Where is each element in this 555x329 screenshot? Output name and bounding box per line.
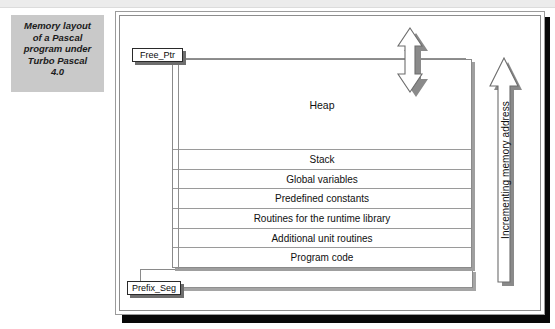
free-ptr-drop-line	[178, 58, 179, 269]
psp-block	[140, 269, 473, 288]
free-ptr-label: Free_Ptr	[132, 48, 183, 62]
memory-row-label: Program code	[291, 252, 354, 263]
memory-row-program-code: Program code	[173, 247, 471, 267]
prefix-seg-leader-line	[141, 287, 471, 288]
memory-row-label: Additional unit routines	[271, 233, 372, 244]
memory-row-stack: Stack	[173, 149, 471, 169]
figure-caption-box: Memory layout of a Pascal program under …	[11, 15, 104, 92]
up-arrow-icon	[488, 52, 522, 288]
memory-row-label: Predefined constants	[275, 193, 369, 204]
prefix-seg-label: Prefix_Seg	[127, 281, 181, 295]
memory-row-label: Routines for the runtime library	[254, 213, 391, 224]
memory-row-global-variables: Global variables	[173, 169, 471, 189]
memory-row-label: Heap	[309, 99, 334, 111]
memory-row-label: Stack	[309, 154, 334, 165]
double-headed-vertical-arrow-icon	[390, 20, 436, 100]
memory-row-predefined-constants: Predefined constants	[173, 188, 471, 208]
memory-row-additional-unit-routines: Additional unit routines	[173, 228, 471, 248]
figure-caption-text: Memory layout of a Pascal program under …	[14, 20, 102, 78]
page-top-strip-edge	[0, 7, 555, 8]
memory-row-label: Global variables	[286, 174, 358, 185]
memory-row-runtime-library: Routines for the runtime library	[173, 208, 471, 228]
page-top-strip	[0, 0, 555, 7]
